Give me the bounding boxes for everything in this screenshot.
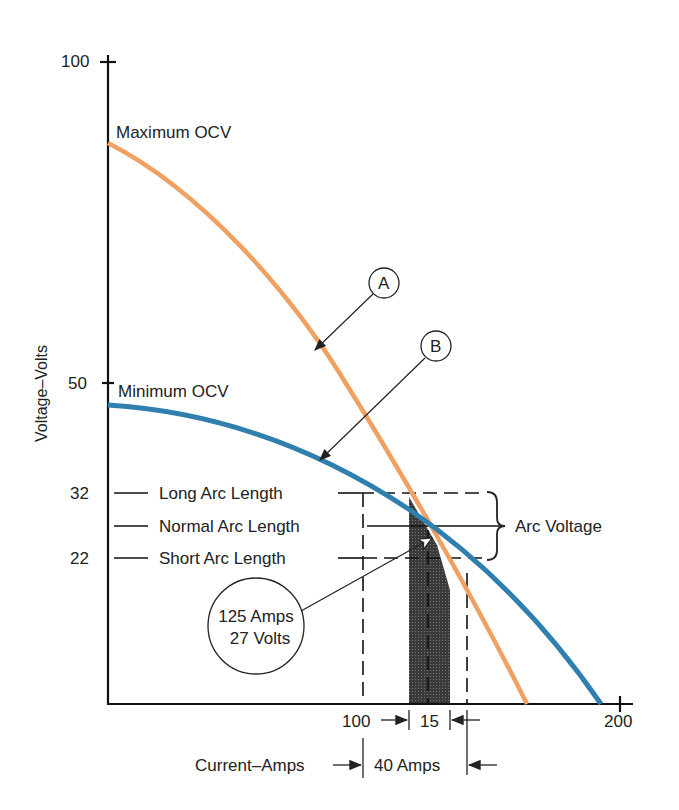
short-arc-length-label: Short Arc Length	[159, 550, 286, 567]
current-band-shading	[409, 497, 450, 704]
ocv-volt-amp-diagram	[0, 0, 679, 810]
range-40-amps-label: 40 Amps	[374, 757, 440, 774]
y-tick-22: 22	[70, 550, 89, 567]
marker-a-pointer	[315, 294, 373, 350]
x-tick-200: 200	[604, 713, 632, 730]
operating-point-amps: 125 Amps	[206, 606, 306, 628]
long-arc-length-label: Long Arc Length	[159, 485, 283, 502]
minimum-ocv-label: Minimum OCV	[118, 383, 229, 400]
y-tick-100: 100	[61, 53, 89, 70]
marker-b-pointer	[320, 358, 425, 460]
normal-arc-length-label: Normal Arc Length	[159, 518, 300, 535]
marker-a-label: A	[378, 275, 389, 292]
curve-a-maximum-ocv	[108, 143, 527, 704]
arc-voltage-label: Arc Voltage	[515, 518, 602, 535]
maximum-ocv-label: Maximum OCV	[116, 124, 231, 141]
x-tick-100: 100	[342, 713, 370, 730]
operating-point-volts: 27 Volts	[210, 628, 310, 650]
y-axis-title: Voltage–Volts	[33, 345, 51, 442]
y-tick-50: 50	[68, 375, 87, 392]
marker-b-label: B	[430, 338, 441, 355]
range-15-label: 15	[420, 713, 439, 730]
x-axis-title: Current–Amps	[195, 757, 305, 774]
y-tick-32: 32	[70, 485, 89, 502]
